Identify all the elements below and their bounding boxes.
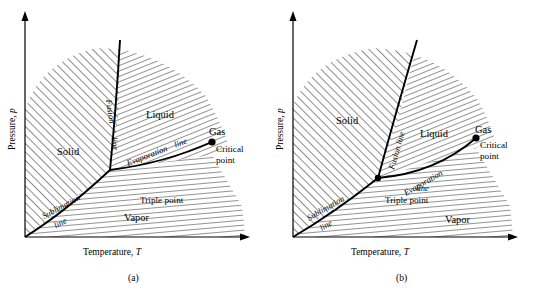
critical-point-label-1: Critical — [216, 144, 244, 154]
y-axis-arrow-icon — [22, 11, 29, 21]
region-label-gas: Gas — [475, 124, 491, 135]
y-axis-arrow-icon — [290, 11, 297, 21]
phase-diagram-figure: Solid Liquid Vapor Gas Fusion line Evapo… — [0, 0, 536, 290]
region-label-solid: Solid — [57, 146, 80, 157]
x-axis-label-symbol: T — [136, 247, 142, 257]
y-axis-label: Pressure, p — [275, 108, 285, 150]
x-axis-label: Temperature, T — [83, 247, 142, 257]
triple-point-label: Triple point — [140, 195, 184, 205]
panel-caption-b: (b) — [396, 273, 407, 284]
y-axis-label: Pressure, p — [7, 108, 17, 150]
fusion-line-label-2: line — [109, 137, 121, 151]
region-label-gas: Gas — [209, 126, 225, 137]
panel-a: Solid Liquid Vapor Gas Fusion line Evapo… — [0, 0, 268, 290]
critical-point-label-2: point — [480, 151, 499, 161]
triple-point-label: Triple point — [385, 195, 429, 205]
x-axis-label-text: Temperature, — [83, 247, 136, 257]
y-axis-label-text: Pressure, — [275, 113, 285, 150]
region-label-vapor: Vapor — [445, 214, 471, 225]
region-label-liquid: Liquid — [420, 128, 449, 139]
critical-point-marker — [472, 134, 479, 141]
region-label-liquid: Liquid — [146, 109, 175, 120]
x-axis-label: Temperature, T — [351, 247, 410, 257]
region-label-solid: Solid — [336, 115, 359, 126]
y-axis-label-symbol: p — [275, 108, 285, 114]
panel-caption-a: (a) — [128, 273, 139, 284]
critical-point-label-2: point — [216, 155, 235, 165]
triple-point-marker — [375, 175, 381, 181]
y-axis-label-symbol: p — [7, 108, 17, 114]
region-label-vapor: Vapor — [124, 212, 150, 223]
x-axis-label-symbol: T — [404, 247, 410, 257]
evaporation-line-label-2: line — [416, 183, 429, 193]
critical-point-marker — [208, 138, 215, 145]
critical-point-label-1: Critical — [480, 140, 508, 150]
x-axis-label-text: Temperature, — [351, 247, 404, 257]
panel-b: Solid Liquid Vapor Gas Fusion line Evapo… — [268, 0, 536, 290]
y-axis-label-text: Pressure, — [7, 113, 17, 150]
